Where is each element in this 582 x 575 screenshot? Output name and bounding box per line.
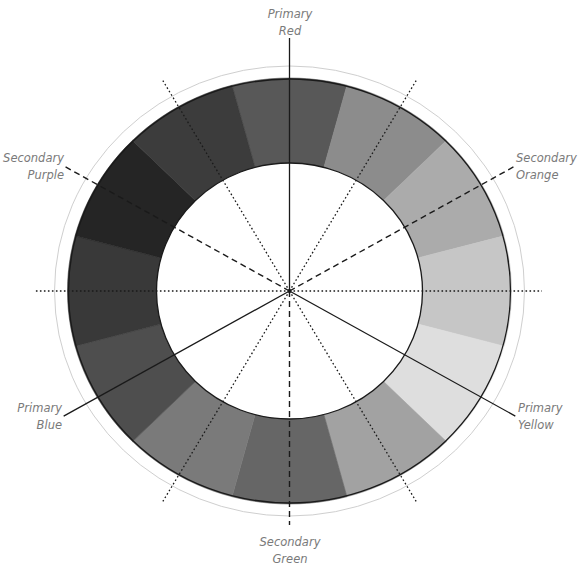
label-secondary-orange-line2: Orange xyxy=(516,167,582,184)
label-secondary-green-line1: Secondary xyxy=(240,534,340,551)
label-primary-red: Primary Red xyxy=(240,6,340,40)
label-primary-yellow: Primary Yellow xyxy=(518,400,582,434)
label-primary-yellow-line1: Primary xyxy=(518,400,582,417)
label-primary-red-line2: Red xyxy=(240,23,340,40)
label-secondary-purple: Secondary Purple xyxy=(0,150,64,184)
label-secondary-purple-line2: Purple xyxy=(0,167,64,184)
label-primary-yellow-line2: Yellow xyxy=(518,417,582,434)
label-secondary-green: Secondary Green xyxy=(240,534,340,568)
label-primary-blue: Primary Blue xyxy=(0,400,62,434)
label-secondary-orange: Secondary Orange xyxy=(516,150,582,184)
label-secondary-orange-line1: Secondary xyxy=(516,150,582,167)
label-primary-blue-line1: Primary xyxy=(0,400,62,417)
label-secondary-purple-line1: Secondary xyxy=(0,150,64,167)
label-secondary-green-line2: Green xyxy=(240,551,340,568)
center-point xyxy=(288,289,292,293)
label-primary-blue-line2: Blue xyxy=(0,417,62,434)
label-primary-red-line1: Primary xyxy=(240,6,340,23)
